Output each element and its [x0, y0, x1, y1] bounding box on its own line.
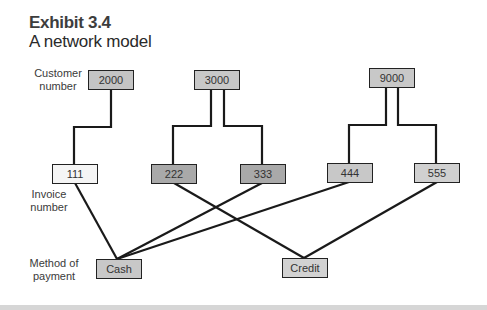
- edge-555-credit: [304, 182, 437, 258]
- node-label: 3000: [205, 74, 229, 86]
- node-label: 2000: [99, 74, 123, 86]
- node-label: 9000: [380, 72, 404, 84]
- invoice-node-333: 333: [240, 164, 286, 184]
- edge-3000-222: [173, 90, 211, 164]
- edges-layer: [0, 0, 487, 310]
- customer-node-3000: 3000: [194, 70, 240, 90]
- edge-2000-111: [74, 90, 111, 165]
- invoice-node-444: 444: [327, 163, 373, 183]
- node-label: 333: [254, 168, 272, 180]
- invoice-node-555: 555: [414, 163, 460, 183]
- edge-444-cash: [117, 182, 349, 259]
- customer-node-9000: 9000: [369, 68, 415, 88]
- node-label: Cash: [106, 263, 132, 275]
- payment-node-credit: Credit: [282, 258, 328, 278]
- customer-node-2000: 2000: [88, 70, 134, 90]
- node-label: 555: [428, 167, 446, 179]
- edge-111-cash: [75, 183, 117, 259]
- invoice-node-111: 111: [52, 164, 98, 184]
- node-label: 444: [341, 167, 359, 179]
- node-label: 111: [67, 168, 84, 180]
- payment-node-cash: Cash: [96, 259, 142, 279]
- node-label: 222: [165, 168, 183, 180]
- network-model-diagram: Exhibit 3.4 A network model Customer num…: [0, 0, 487, 310]
- bottom-divider-band: [0, 305, 487, 310]
- edge-9000-555: [398, 88, 436, 163]
- node-label: Credit: [290, 262, 319, 274]
- invoice-node-222: 222: [151, 164, 197, 184]
- edge-3000-333: [224, 90, 262, 164]
- edge-9000-444: [349, 88, 386, 163]
